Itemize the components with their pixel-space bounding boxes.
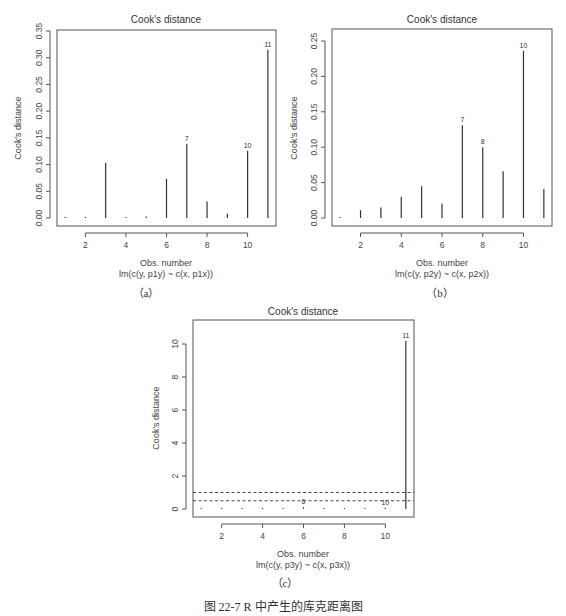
plot-frame [332,29,552,226]
x-tick-label: 6 [440,240,445,250]
y-axis: 0246810 [170,339,186,511]
model-formula: lm(c(y, p2y) ~ c(x, p2x)) [395,269,489,279]
y-tick-label: 2 [170,473,180,478]
y-tick-label: 0.25 [34,76,44,93]
bars: 61011 [201,332,409,509]
y-tick-label: 0.30 [34,49,44,66]
y-tick-label: 0.35 [34,22,44,39]
obs-label: 10 [381,499,389,506]
chart-b-svg: Cook's distance 0.000.050.100.150.200.25… [276,0,566,300]
obs-label: 10 [520,42,528,49]
x-tick-label: 6 [164,240,169,250]
obs-label: 8 [481,138,485,145]
x-axis: 246810 [358,233,528,250]
x-tick-label: 6 [301,531,306,541]
cooks-distance-chart-c: Cook's distance 0246810 246810 61011 Coo… [140,300,430,600]
y-tick-label: 0.10 [309,139,319,156]
y-tick-label: 0.00 [309,209,319,226]
y-tick-label: 10 [170,339,180,349]
model-formula: lm(c(y, p3y) ~ c(x, p3x)) [256,560,350,570]
obs-label: 11 [264,41,271,48]
y-tick-label: 6 [170,407,180,412]
y-tick-label: 0.05 [34,183,44,200]
y-tick-label: 0.15 [34,129,44,146]
subfigure-label-c: （c） [255,574,315,590]
obs-label: 6 [302,498,306,505]
x-axis-label: Obs. number [140,258,192,268]
y-tick-label: 0.10 [34,156,44,173]
x-tick-label: 4 [260,531,265,541]
x-axis: 246810 [219,524,390,541]
cooks-distance-chart-a: Cook's distance 0.000.050.100.150.200.25… [0,0,283,300]
x-tick-label: 2 [83,240,88,250]
y-axis-label: Cook's distance [289,96,299,159]
x-tick-label: 4 [124,240,129,250]
x-tick-label: 10 [381,531,391,541]
x-tick-label: 8 [342,531,347,541]
y-tick-label: 0.00 [34,209,44,226]
obs-label: 11 [402,332,409,339]
subfigure-label-a: （a） [116,284,176,300]
chart-c-svg: Cook's distance 0246810 246810 61011 Coo… [140,300,430,600]
y-axis-label: Cook's distance [151,386,161,449]
y-tick-label: 0.25 [309,32,319,49]
chart-a-svg: Cook's distance 0.000.050.100.150.200.25… [0,0,283,300]
plot-frame [193,320,414,517]
obs-label: 10 [244,142,252,149]
bars: 71011 [65,41,272,218]
y-tick-label: 4 [170,440,180,445]
y-tick-label: 0.20 [34,103,44,120]
x-tick-label: 8 [205,240,210,250]
x-axis: 246810 [83,233,253,250]
bars: 7810 [340,42,544,218]
obs-label: 7 [185,135,189,142]
y-axis: 0.000.050.100.150.200.250.300.35 [34,22,50,226]
x-axis-label: Obs. number [277,549,329,559]
chart-title: Cook's distance [407,14,478,25]
x-tick-label: 10 [519,240,529,250]
figure-caption: 图 22-7 R 中产生的库克距离图 [0,597,566,615]
x-tick-label: 8 [480,240,485,250]
subfigure-label-b: （b） [410,284,470,300]
obs-label: 7 [460,116,464,123]
chart-title: Cook's distance [131,14,202,25]
x-axis-label: Obs. number [416,258,468,268]
x-tick-label: 4 [399,240,404,250]
y-axis: 0.000.050.100.150.200.25 [309,32,325,226]
y-tick-label: 0.20 [309,68,319,85]
y-axis-label: Cook's distance [13,96,23,159]
x-tick-label: 10 [243,240,253,250]
y-tick-label: 0 [170,506,180,511]
cooks-distance-chart-b: Cook's distance 0.000.050.100.150.200.25… [276,0,566,300]
x-tick-label: 2 [219,531,224,541]
y-tick-label: 0.05 [309,174,319,191]
y-tick-label: 8 [170,374,180,379]
x-tick-label: 2 [358,240,363,250]
y-tick-label: 0.15 [309,103,319,120]
model-formula: lm(c(y, p1y) ~ c(x, p1x)) [119,269,213,279]
chart-title: Cook's distance [268,306,339,317]
